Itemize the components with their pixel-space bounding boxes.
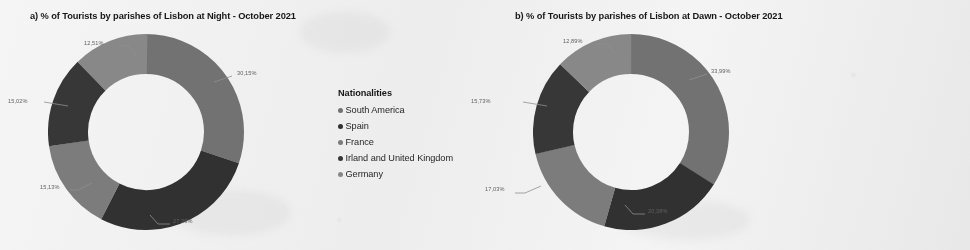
chart-b-leader-right: [689, 72, 711, 82]
legend-swatch-icon: [338, 124, 343, 129]
chart-a-leader-bottom-left: [70, 182, 94, 194]
legend-label: Irland and United Kingdom: [346, 153, 454, 163]
chart-a-donut: [48, 34, 244, 230]
legend-item-south-america[interactable]: South America: [338, 102, 453, 118]
legend-item-france[interactable]: France: [338, 134, 453, 150]
chart-b-label-bottom: 20,38%: [648, 208, 668, 214]
legend-label: Germany: [346, 169, 383, 179]
chart-panel-a: a) % of Tourists by parishes of Lisbon a…: [0, 0, 485, 250]
chart-a-title: a) % of Tourists by parishes of Lisbon a…: [30, 11, 296, 21]
chart-b-leader-top: [597, 42, 619, 56]
legend-item-germany[interactable]: Germany: [338, 166, 453, 182]
chart-a-leader-left: [44, 100, 70, 108]
legend-label: France: [346, 137, 374, 147]
chart-b-title: b) % of Tourists by parishes of Lisbon a…: [515, 11, 783, 21]
chart-a-leader-bottom: [150, 214, 172, 228]
legend-swatch-icon: [338, 140, 343, 145]
chart-b-label-top: 12,89%: [563, 38, 583, 44]
chart-a-legend-title: Nationalities: [338, 88, 453, 98]
legend-swatch-icon: [338, 156, 343, 161]
legend-label: Spain: [346, 121, 369, 131]
chart-a-label-left: 15,02%: [8, 98, 28, 104]
chart-a-label-top: 12,51%: [84, 40, 104, 46]
legend-swatch-icon: [338, 172, 343, 177]
chart-a-label-bottom: 27,39%: [173, 218, 193, 224]
chart-a-legend: Nationalities South America Spain France…: [338, 88, 453, 182]
chart-a-leader-top: [118, 44, 140, 58]
chart-panel-b: b) % of Tourists by parishes of Lisbon a…: [485, 0, 970, 250]
chart-b-leader-left: [523, 100, 549, 108]
legend-swatch-icon: [338, 108, 343, 113]
chart-b-leader-bottom-left: [515, 185, 543, 197]
chart-a-leader-right: [214, 74, 236, 84]
legend-label: South America: [346, 105, 405, 115]
chart-a-label-bottom-left: 15,13%: [40, 184, 60, 190]
legend-item-irland-uk[interactable]: Irland and United Kingdom: [338, 150, 453, 166]
legend-item-spain[interactable]: Spain: [338, 118, 453, 134]
chart-a-label-right: 30,15%: [237, 70, 257, 76]
chart-b-label-left: 15,73%: [471, 98, 491, 104]
chart-b-leader-bottom: [625, 204, 647, 218]
chart-b-label-bottom-left: 17,03%: [485, 186, 505, 192]
chart-b-label-right: 33,99%: [711, 68, 731, 74]
chart-b-donut: [533, 34, 729, 230]
